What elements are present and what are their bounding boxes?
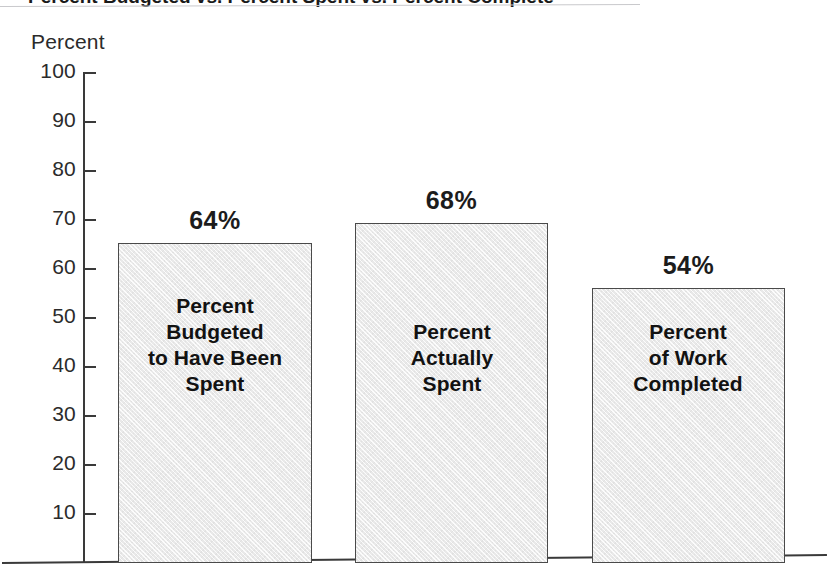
bar-percent-budgeted[interactable] xyxy=(118,243,312,563)
y-tick-label-30: 30 xyxy=(16,402,76,426)
bar-caption-2-line-2: Actually xyxy=(352,345,552,371)
bar-caption-1-line-1: Percent xyxy=(110,293,320,319)
bar-value-label-1: 64% xyxy=(118,206,312,235)
y-tick-10 xyxy=(83,513,96,515)
y-tick-30 xyxy=(83,415,96,417)
y-tick-50 xyxy=(83,317,96,319)
bar-caption-1: Percent Budgeted to Have Been Spent xyxy=(110,293,320,397)
y-tick-label-20: 20 xyxy=(16,451,76,475)
y-tick-90 xyxy=(83,121,96,123)
y-tick-label-100: 100 xyxy=(16,59,76,83)
bar-caption-2: Percent Actually Spent xyxy=(352,319,552,397)
y-tick-label-60: 60 xyxy=(16,255,76,279)
y-tick-60 xyxy=(83,268,96,270)
bar-caption-3-line-1: Percent xyxy=(588,319,788,345)
y-tick-100 xyxy=(83,72,96,74)
y-tick-70 xyxy=(83,219,96,221)
y-tick-80 xyxy=(83,170,96,172)
y-tick-label-10: 10 xyxy=(16,500,76,524)
bar-caption-2-line-1: Percent xyxy=(352,319,552,345)
bar-caption-1-line-2: Budgeted xyxy=(110,319,320,345)
y-tick-label-40: 40 xyxy=(16,353,76,377)
y-tick-label-80: 80 xyxy=(16,157,76,181)
bar-caption-3-line-2: of Work xyxy=(588,345,788,371)
y-tick-label-50: 50 xyxy=(16,304,76,328)
bar-caption-3-line-3: Completed xyxy=(588,371,788,397)
bar-caption-1-line-3: to Have Been xyxy=(110,345,320,371)
y-tick-40 xyxy=(83,366,96,368)
bar-caption-2-line-3: Spent xyxy=(352,371,552,397)
bar-chart-figure: Percent Budgeted vs. Percent Spent vs. P… xyxy=(0,0,827,586)
bar-value-label-3: 54% xyxy=(592,251,785,280)
bar-value-label-2: 68% xyxy=(355,186,548,215)
y-tick-20 xyxy=(83,464,96,466)
bar-caption-1-line-4: Spent xyxy=(110,371,320,397)
bar-caption-3: Percent of Work Completed xyxy=(588,319,788,397)
y-tick-label-90: 90 xyxy=(16,108,76,132)
y-tick-label-70: 70 xyxy=(16,206,76,230)
y-axis-title: Percent xyxy=(31,30,105,54)
